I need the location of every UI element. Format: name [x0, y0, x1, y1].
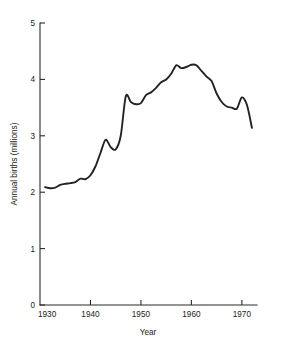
x-axis-ticks	[90, 300, 241, 305]
y-tick-label: 1	[30, 245, 35, 254]
x-tick-label: 1930	[38, 310, 57, 319]
y-tick-label: 4	[30, 75, 35, 84]
y-axis-title: Annual births (millions)	[10, 122, 19, 205]
y-tick-label: 3	[30, 132, 35, 141]
y-axis-ticks	[40, 23, 45, 305]
births-line-chart: 012345 19301940195019601970 Year Annual …	[0, 0, 285, 345]
x-axis-tick-labels: 19301940195019601970	[38, 310, 251, 319]
x-tick-label: 1940	[81, 310, 100, 319]
x-tick-label: 1970	[233, 310, 252, 319]
y-tick-label: 5	[30, 19, 35, 28]
plot-axes	[40, 23, 257, 305]
x-tick-label: 1950	[132, 310, 151, 319]
data-series-line	[45, 65, 252, 189]
y-axis-tick-labels: 012345	[30, 19, 35, 310]
chart-figure: 012345 19301940195019601970 Year Annual …	[0, 0, 285, 345]
y-tick-label: 2	[30, 188, 35, 197]
x-tick-label: 1960	[182, 310, 201, 319]
y-tick-label: 0	[30, 301, 35, 310]
x-axis-title: Year	[140, 328, 157, 337]
